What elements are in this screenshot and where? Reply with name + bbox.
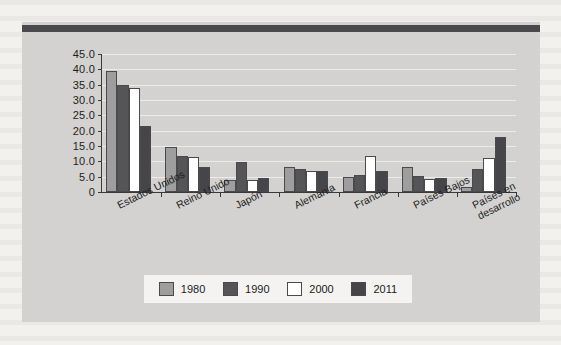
legend-swatch-1980	[159, 282, 174, 296]
x-axis-tick	[457, 192, 458, 197]
y-axis-tick	[98, 146, 102, 147]
bar-1990-2	[236, 162, 247, 192]
y-axis-tick-label: 10.0	[73, 155, 95, 167]
y-axis-tick	[98, 100, 102, 101]
y-axis-tick-label: 40.0	[73, 63, 95, 75]
y-axis-tick	[98, 69, 102, 70]
legend-item[interactable]: 2011	[351, 282, 397, 296]
bar-1980-4	[343, 177, 354, 192]
legend-item[interactable]: 1980	[159, 282, 205, 296]
y-axis-tick-label: 25.0	[73, 109, 95, 121]
x-axis-tick	[161, 192, 162, 197]
legend-label-2011: 2011	[373, 283, 397, 295]
bar-1990-0	[117, 85, 128, 192]
bar-series-container	[102, 54, 516, 192]
y-axis-tick-label: 45.0	[73, 48, 95, 60]
y-axis-tick-label: 5.0	[79, 171, 95, 183]
legend-label-1990: 1990	[245, 283, 269, 295]
legend-swatch-2011	[351, 282, 366, 296]
legend-item[interactable]: 1990	[223, 282, 269, 296]
y-axis-tick	[98, 192, 102, 193]
plot-area: 45.040.035.030.025.020.015.010.05.00	[102, 54, 516, 192]
bar-2000-4	[365, 156, 376, 192]
legend-swatch-1990	[223, 282, 238, 296]
legend-item[interactable]: 2000	[287, 282, 333, 296]
y-axis-tick	[98, 131, 102, 132]
bar-1980-0	[106, 71, 117, 192]
bar-1990-5	[413, 176, 424, 192]
bar-2000-1	[188, 157, 199, 192]
x-axis-tick	[220, 192, 221, 197]
bar-1990-6	[472, 169, 483, 192]
y-axis-tick	[98, 85, 102, 86]
legend-swatch-2000	[287, 282, 302, 296]
legend-label-1980: 1980	[181, 283, 205, 295]
y-axis-tick	[98, 177, 102, 178]
x-axis-tick	[339, 192, 340, 197]
x-axis-tick	[398, 192, 399, 197]
chart-legend: 1980 1990 2000 2011	[144, 275, 412, 303]
bar-2000-6	[483, 158, 494, 192]
legend-label-2000: 2000	[309, 283, 333, 295]
bar-1990-4	[354, 175, 365, 192]
x-axis-tick	[279, 192, 280, 197]
bar-1980-3	[284, 167, 295, 192]
chart-figure: 45.040.035.030.025.020.015.010.05.00 198…	[22, 22, 540, 322]
y-axis-tick-label: 30.0	[73, 94, 95, 106]
figure-top-rule	[22, 25, 540, 32]
y-axis-tick	[98, 54, 102, 55]
y-axis-tick-label: 15.0	[73, 140, 95, 152]
y-axis-tick-label: 35.0	[73, 79, 95, 91]
bar-2000-0	[129, 88, 140, 192]
y-axis-tick-label: 0	[89, 186, 95, 198]
bar-1980-5	[402, 167, 413, 192]
y-axis-tick-label: 20.0	[73, 125, 95, 137]
y-axis-tick	[98, 115, 102, 116]
y-axis-tick	[98, 161, 102, 162]
bar-1990-3	[295, 169, 306, 192]
